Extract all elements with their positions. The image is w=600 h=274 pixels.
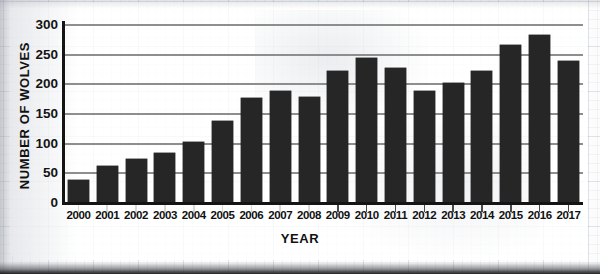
x-tick-label-2013: 2013 — [439, 209, 468, 221]
x-tick-label-2011: 2011 — [381, 209, 410, 221]
y-tick-label-250: 250 — [35, 46, 58, 61]
bar-slot — [496, 24, 525, 202]
y-tick-label-150: 150 — [35, 106, 58, 121]
bar-2008 — [299, 97, 320, 202]
cropped-header-text — [28, 0, 568, 3]
x-tick-label-2014: 2014 — [468, 209, 497, 221]
bar-2002 — [126, 159, 147, 202]
y-tick-label-50: 50 — [43, 165, 58, 180]
bar-slot — [122, 24, 151, 202]
bar-slot — [525, 24, 554, 202]
x-tick-label-2005: 2005 — [208, 209, 237, 221]
bar-slot — [439, 24, 468, 202]
bar-2016 — [529, 35, 550, 202]
bar-2010 — [356, 58, 377, 202]
bar-slot — [266, 24, 295, 202]
chart-screenshot: 300 250 200 150 100 50 0 200020012002200… — [0, 0, 600, 274]
bar-slot — [468, 24, 497, 202]
x-tick-label-2015: 2015 — [496, 209, 525, 221]
x-tick-label-2016: 2016 — [525, 209, 554, 221]
bar-series — [64, 24, 583, 202]
bar-slot — [93, 24, 122, 202]
x-axis-tick-labels: 2000200120022003200420052006200720082009… — [64, 209, 583, 221]
x-tick-label-2002: 2002 — [122, 209, 151, 221]
x-tick-label-2000: 2000 — [64, 209, 93, 221]
x-tick-label-2009: 2009 — [323, 209, 352, 221]
bar-slot — [150, 24, 179, 202]
x-tick-label-2012: 2012 — [410, 209, 439, 221]
bar-slot — [295, 24, 324, 202]
x-tick-label-2017: 2017 — [554, 209, 583, 221]
x-tick-label-2008: 2008 — [295, 209, 324, 221]
bar-slot — [179, 24, 208, 202]
bar-2014 — [471, 71, 492, 202]
bar-slot — [381, 24, 410, 202]
bar-2013 — [443, 83, 464, 202]
bar-2001 — [97, 166, 118, 202]
bar-2011 — [385, 68, 406, 202]
y-tick-label-300: 300 — [35, 17, 58, 32]
bar-2005 — [212, 121, 233, 202]
bar-slot — [323, 24, 352, 202]
bar-chart: 300 250 200 150 100 50 0 200020012002200… — [0, 0, 600, 274]
bar-slot — [64, 24, 93, 202]
x-tick-label-2010: 2010 — [352, 209, 381, 221]
bar-2007 — [270, 91, 291, 202]
bar-2017 — [558, 61, 579, 202]
y-axis-title: NUMBER OF WOLVES — [17, 41, 32, 191]
bar-2015 — [500, 45, 521, 202]
bar-slot — [410, 24, 439, 202]
y-tick-label-100: 100 — [35, 135, 58, 150]
x-tick-label-2007: 2007 — [266, 209, 295, 221]
bar-2006 — [241, 98, 262, 202]
x-tick-label-2006: 2006 — [237, 209, 266, 221]
bar-2012 — [414, 91, 435, 202]
bar-slot — [237, 24, 266, 202]
bar-2003 — [154, 153, 175, 202]
bar-slot — [554, 24, 583, 202]
bar-slot — [208, 24, 237, 202]
x-tick-label-2001: 2001 — [93, 209, 122, 221]
x-tick-label-2004: 2004 — [179, 209, 208, 221]
x-tick-label-2003: 2003 — [150, 209, 179, 221]
y-tick-label-0: 0 — [50, 195, 58, 210]
y-tick-label-200: 200 — [35, 76, 58, 91]
bar-2000 — [68, 180, 89, 202]
bar-2004 — [183, 142, 204, 202]
bar-slot — [352, 24, 381, 202]
bar-2009 — [327, 71, 348, 202]
x-axis-title: YEAR — [0, 231, 600, 246]
